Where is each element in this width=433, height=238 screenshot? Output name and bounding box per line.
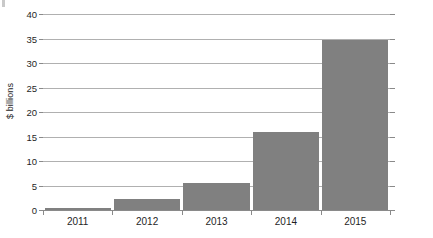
bar-2013	[183, 183, 249, 210]
y-tick-mark-right-25	[390, 88, 395, 89]
x-tick-mark-end	[390, 210, 391, 215]
x-tick-mark-2014	[251, 210, 252, 215]
y-tick-label-40: 40	[26, 9, 37, 20]
y-axis-title: $ billions	[5, 65, 15, 137]
y-tick-label-20: 20	[26, 107, 37, 118]
bar-2012	[114, 199, 180, 210]
bars-layer	[43, 14, 390, 210]
bar-2015	[322, 40, 388, 210]
x-axis-line	[43, 210, 391, 211]
y-tick-mark-right-5	[390, 186, 395, 187]
x-tick-mark-2015	[321, 210, 322, 215]
y-tick-label-5: 5	[32, 180, 37, 191]
x-tick-mark-start	[43, 210, 44, 215]
y-tick-label-30: 30	[26, 58, 37, 69]
x-tick-label-2011: 2011	[67, 216, 89, 227]
x-tick-mark-2013	[182, 210, 183, 215]
y-tick-mark-right-10	[390, 161, 395, 162]
x-tick-label-2015: 2015	[344, 216, 366, 227]
x-tick-label-2014: 2014	[275, 216, 297, 227]
y-tick-mark-right-40	[390, 14, 395, 15]
plot-area: 0510152025303540	[43, 14, 390, 210]
y-tick-label-0: 0	[32, 205, 37, 216]
y-tick-label-10: 10	[26, 156, 37, 167]
x-tick-label-2013: 2013	[205, 216, 227, 227]
y-tick-mark-right-15	[390, 137, 395, 138]
bar-2014	[253, 132, 319, 210]
y-tick-mark-right-35	[390, 39, 395, 40]
y-tick-label-35: 35	[26, 33, 37, 44]
y-tick-mark-right-20	[390, 112, 395, 113]
x-tick-label-2012: 2012	[136, 216, 158, 227]
bar-chart-figure: $ billions 0510152025303540 201120122013…	[0, 0, 433, 238]
y-tick-label-25: 25	[26, 82, 37, 93]
y-tick-label-15: 15	[26, 131, 37, 142]
x-tick-mark-2012	[112, 210, 113, 215]
y-tick-mark-right-30	[390, 63, 395, 64]
scan-artifact-mark	[2, 0, 5, 7]
